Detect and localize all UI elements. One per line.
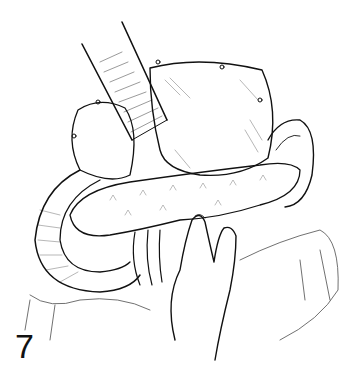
- duodenum: [35, 170, 140, 292]
- mesentery: [25, 230, 338, 340]
- figure-number: 7: [15, 326, 34, 366]
- pancreas: [70, 163, 300, 236]
- hand: [171, 214, 236, 360]
- stomach: [150, 60, 273, 175]
- figure-canvas: 7: [0, 0, 353, 376]
- surgical-illustration: [0, 0, 353, 376]
- mesenteric-vessels: [133, 230, 162, 285]
